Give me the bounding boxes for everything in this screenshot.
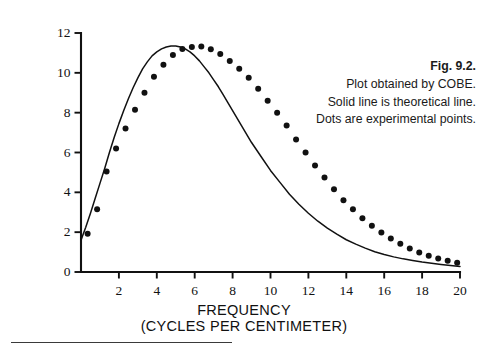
y-tick-label-2: 2 <box>45 224 71 240</box>
x-tick-label-14: 14 <box>331 283 361 299</box>
figure-caption-line-3: Dots are experimental points. <box>266 111 476 128</box>
page-divider-rule <box>11 342 232 343</box>
figure-caption-line-2: Solid line is theoretical line. <box>266 94 476 111</box>
x-axis-title-line-2: (CYCLES PER CENTIMETER) <box>0 318 488 334</box>
figure-caption: Fig. 9.2. Plot obtained by COBE. Solid l… <box>266 58 476 129</box>
x-tick-label-4: 4 <box>142 283 172 299</box>
x-tick-label-10: 10 <box>256 283 286 299</box>
y-tick-label-6: 6 <box>45 145 71 161</box>
y-tick-label-10: 10 <box>45 65 71 81</box>
y-tick-label-4: 4 <box>45 184 71 200</box>
x-tick-label-6: 6 <box>180 283 210 299</box>
figure-caption-line-1: Plot obtained by COBE. <box>266 76 476 93</box>
y-tick-label-0: 0 <box>45 264 71 280</box>
figure-container: 024681012 2468101214161820 RELATIVE INTE… <box>0 0 488 359</box>
x-tick-label-2: 2 <box>104 283 134 299</box>
x-axis-title-line-1: FREQUENCY <box>0 302 488 318</box>
x-tick-label-20: 20 <box>445 283 475 299</box>
figure-caption-title: Fig. 9.2. <box>266 58 476 75</box>
x-tick-label-12: 12 <box>293 283 323 299</box>
x-tick-label-18: 18 <box>407 283 437 299</box>
y-tick-label-8: 8 <box>45 105 71 121</box>
x-tick-label-8: 8 <box>218 283 248 299</box>
y-tick-label-12: 12 <box>45 25 71 41</box>
x-tick-label-16: 16 <box>369 283 399 299</box>
